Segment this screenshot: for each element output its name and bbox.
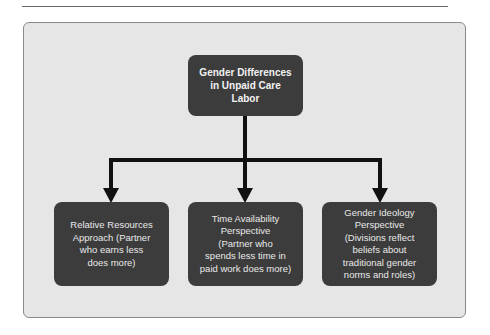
node-line: Time Availability bbox=[200, 213, 291, 226]
node-line: paid work does more) bbox=[200, 263, 291, 276]
node-line: does more) bbox=[70, 257, 152, 270]
node-line: Perspective bbox=[343, 219, 416, 232]
node-line: spends less time in bbox=[200, 250, 291, 263]
node-line: norms and roles) bbox=[343, 269, 416, 282]
child-node-gender-ideology: Gender Ideology Perspective (Divisions r… bbox=[322, 202, 437, 286]
node-line: traditional gender bbox=[343, 257, 416, 270]
arrowhead-icon bbox=[372, 188, 388, 203]
root-line: Gender Differences bbox=[199, 66, 291, 79]
node-line: Relative Resources bbox=[70, 219, 152, 232]
node-line: Gender Ideology bbox=[343, 207, 416, 220]
child-node-time-availability: Time Availability Perspective (Partner w… bbox=[188, 202, 303, 286]
arrowhead-icon bbox=[103, 188, 119, 203]
child-node-relative-resources: Relative Resources Approach (Partner who… bbox=[54, 202, 169, 286]
node-line: who earns less bbox=[70, 244, 152, 257]
arrowhead-icon bbox=[237, 188, 253, 203]
node-line: beliefs about bbox=[343, 244, 416, 257]
node-line: (Divisions reflect bbox=[343, 232, 416, 245]
node-line: Perspective bbox=[200, 225, 291, 238]
root-line: in Unpaid Care bbox=[199, 79, 291, 92]
node-line: (Partner who bbox=[200, 238, 291, 251]
node-line: Approach (Partner bbox=[70, 232, 152, 245]
root-node: Gender Differences in Unpaid Care Labor bbox=[188, 55, 303, 116]
root-line: Labor bbox=[199, 92, 291, 105]
